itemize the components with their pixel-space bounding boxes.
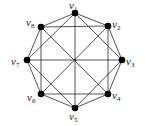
edge-v8-v1 xyxy=(41,13,75,27)
edge-v7-v8 xyxy=(27,27,41,60)
vertex-label-v2: v2 xyxy=(112,19,120,32)
vertex-label-subscript: 8 xyxy=(31,22,35,30)
vertex-v8 xyxy=(38,24,45,31)
graph-edges-and-nodes xyxy=(0,0,145,126)
vertex-label-v4: v4 xyxy=(112,90,120,103)
vertex-v2 xyxy=(105,23,112,30)
vertex-label-subscript: 2 xyxy=(117,24,121,32)
vertex-label-v6: v6 xyxy=(27,92,35,105)
edge-v8-v2 xyxy=(41,26,108,27)
edge-v6-v7 xyxy=(27,60,41,94)
vertex-label-subscript: 4 xyxy=(117,95,121,103)
vertex-label-v3: v3 xyxy=(126,56,134,69)
vertex-v6 xyxy=(38,91,45,98)
center-crossing-dot xyxy=(74,59,76,61)
vertex-label-subscript: 1 xyxy=(74,5,78,13)
vertex-v3 xyxy=(119,57,126,64)
vertex-label-subscript: 7 xyxy=(16,61,20,69)
vertex-label-v1: v1 xyxy=(69,0,77,13)
vertex-label-v5: v5 xyxy=(69,111,77,124)
edge-v5-v6 xyxy=(41,94,75,108)
vertex-label-v8: v8 xyxy=(26,17,34,30)
vertex-v4 xyxy=(105,91,112,98)
vertex-label-subscript: 6 xyxy=(32,97,36,105)
vertex-v7 xyxy=(24,57,31,64)
edge-v4-v5 xyxy=(75,94,108,108)
vertex-label-v7: v7 xyxy=(11,56,19,69)
vertex-label-subscript: 3 xyxy=(131,61,135,69)
edge-v1-v2 xyxy=(75,13,108,26)
graph-diagram: v1v2v3v4v5v6v7v8 xyxy=(0,0,145,126)
vertex-label-subscript: 5 xyxy=(74,116,78,124)
